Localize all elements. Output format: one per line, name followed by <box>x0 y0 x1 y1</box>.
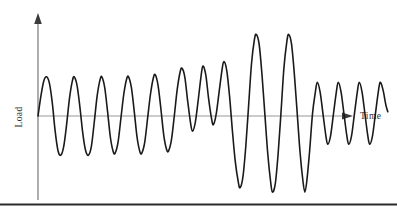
x-axis-label: Time <box>360 111 381 121</box>
chart-background <box>0 0 397 214</box>
y-axis-label: Load <box>14 106 24 127</box>
load-time-chart: Load Time <box>0 0 397 214</box>
